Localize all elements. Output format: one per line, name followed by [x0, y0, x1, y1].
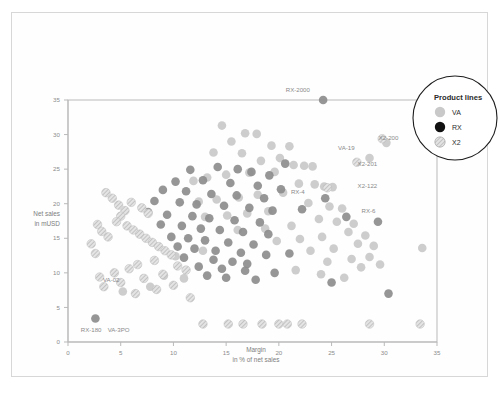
data-point[interactable] — [306, 246, 315, 255]
data-point[interactable] — [296, 235, 305, 244]
data-point[interactable] — [344, 228, 353, 237]
data-point[interactable] — [265, 171, 274, 180]
data-point[interactable] — [224, 238, 233, 247]
data-point[interactable] — [241, 129, 250, 138]
data-point[interactable] — [268, 206, 277, 215]
data-point[interactable] — [287, 222, 296, 231]
data-point[interactable] — [272, 237, 281, 246]
data-point[interactable] — [340, 273, 349, 282]
data-point[interactable] — [291, 266, 300, 275]
data-point[interactable] — [226, 179, 235, 188]
data-point[interactable] — [365, 320, 374, 329]
data-point[interactable] — [323, 184, 332, 193]
data-point[interactable] — [416, 320, 425, 329]
data-point[interactable] — [182, 266, 191, 275]
data-point[interactable] — [252, 130, 261, 139]
data-point[interactable] — [190, 244, 199, 253]
data-point[interactable] — [220, 201, 229, 210]
data-point[interactable] — [152, 285, 161, 294]
data-point[interactable] — [188, 212, 197, 221]
data-point[interactable] — [232, 191, 241, 200]
data-point[interactable] — [298, 320, 307, 329]
data-point[interactable] — [260, 194, 269, 203]
data-point[interactable] — [144, 209, 153, 218]
data-point[interactable] — [230, 216, 239, 225]
data-point[interactable] — [180, 274, 189, 283]
data-point[interactable] — [257, 157, 266, 166]
data-point[interactable] — [102, 188, 111, 197]
data-point[interactable] — [218, 121, 227, 130]
data-point[interactable] — [308, 162, 317, 171]
data-point[interactable] — [258, 320, 267, 329]
data-point[interactable] — [224, 320, 233, 329]
data-point[interactable] — [270, 269, 279, 278]
data-point[interactable] — [283, 320, 292, 329]
data-point[interactable] — [319, 96, 328, 105]
data-point[interactable] — [156, 220, 165, 229]
data-point[interactable] — [249, 240, 258, 249]
data-point[interactable] — [318, 233, 327, 242]
data-point[interactable] — [239, 228, 248, 237]
data-point[interactable] — [228, 257, 237, 266]
data-point[interactable] — [310, 180, 319, 189]
legend[interactable]: Product lines VA RX X2 — [413, 76, 497, 160]
data-point[interactable] — [251, 275, 260, 284]
data-point[interactable] — [361, 231, 370, 240]
data-point[interactable] — [159, 186, 168, 195]
data-point[interactable] — [159, 270, 168, 279]
data-point[interactable] — [222, 273, 231, 282]
data-point[interactable] — [241, 266, 250, 275]
data-point[interactable] — [87, 240, 96, 249]
data-point[interactable] — [285, 249, 294, 258]
data-point[interactable] — [163, 210, 172, 219]
data-point[interactable] — [223, 211, 232, 220]
data-point[interactable] — [199, 246, 208, 255]
data-point[interactable] — [227, 137, 236, 146]
data-point[interactable] — [184, 234, 193, 243]
data-point[interactable] — [205, 214, 214, 223]
data-point[interactable] — [199, 320, 208, 329]
data-point[interactable] — [173, 242, 182, 251]
data-point[interactable] — [125, 264, 134, 273]
data-point[interactable] — [357, 263, 366, 272]
data-point[interactable] — [285, 142, 294, 151]
data-point[interactable] — [197, 224, 206, 233]
data-point[interactable] — [211, 246, 220, 255]
data-point[interactable] — [349, 219, 358, 228]
data-point[interactable] — [369, 242, 378, 251]
data-point[interactable] — [298, 205, 307, 214]
data-point[interactable] — [182, 187, 191, 196]
data-point[interactable] — [239, 320, 248, 329]
data-point[interactable] — [173, 262, 182, 271]
data-point[interactable] — [384, 289, 393, 298]
data-point[interactable] — [300, 161, 309, 170]
data-point[interactable] — [233, 165, 242, 174]
data-point[interactable] — [100, 282, 109, 291]
data-point[interactable] — [247, 168, 256, 177]
data-point[interactable] — [304, 199, 313, 208]
data-point[interactable] — [347, 255, 356, 264]
data-point[interactable] — [140, 274, 149, 283]
data-point[interactable] — [253, 181, 262, 190]
data-point[interactable] — [327, 278, 336, 287]
data-point[interactable] — [203, 271, 212, 280]
data-point[interactable] — [376, 260, 385, 269]
data-point[interactable] — [245, 204, 254, 213]
data-point[interactable] — [216, 226, 225, 235]
data-point[interactable] — [127, 198, 136, 207]
data-point[interactable] — [238, 149, 247, 158]
data-point[interactable] — [325, 202, 334, 211]
data-point[interactable] — [262, 251, 271, 260]
data-point[interactable] — [264, 230, 273, 239]
data-point[interactable] — [194, 262, 203, 271]
data-point[interactable] — [354, 240, 363, 249]
data-point[interactable] — [171, 177, 180, 186]
data-point[interactable] — [267, 141, 276, 150]
data-point[interactable] — [237, 249, 246, 258]
data-point[interactable] — [91, 314, 100, 323]
data-point[interactable] — [180, 253, 189, 262]
data-point[interactable] — [374, 217, 383, 226]
data-point[interactable] — [365, 253, 374, 262]
data-point[interactable] — [167, 233, 176, 242]
data-point[interactable] — [169, 281, 178, 290]
